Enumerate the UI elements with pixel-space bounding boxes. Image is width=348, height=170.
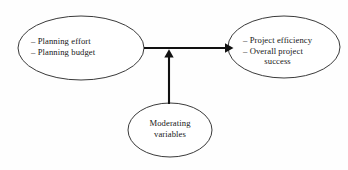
diagram-canvas: – Planning effort – Planning budget – Pr… bbox=[0, 0, 348, 170]
node-outcome-ellipse[interactable] bbox=[228, 16, 340, 78]
node-planning-ellipse[interactable] bbox=[18, 16, 144, 80]
arrowhead-up-icon bbox=[164, 49, 173, 57]
node-moderating-ellipse[interactable] bbox=[128, 103, 212, 157]
connector-moderating-to-path[interactable] bbox=[164, 49, 173, 104]
connector-planning-to-outcome[interactable] bbox=[144, 43, 234, 53]
diagram-svg bbox=[0, 0, 348, 170]
